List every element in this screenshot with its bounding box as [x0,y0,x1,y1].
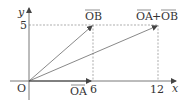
y-axis-label: y [17,6,25,19]
vector-ob [29,26,92,81]
svg-text:OB: OB [161,10,178,23]
label-oa: OA [70,85,88,98]
label-oa-plus-ob: OA + OB [136,10,178,23]
x-tick-12: 12 [150,83,164,96]
vector-oa-plus-ob [29,26,157,81]
origin-label: O [17,82,26,95]
y-tick-5: 5 [20,19,27,32]
x-axis-label: x [172,82,179,95]
svg-text:OA: OA [70,85,88,98]
x-tick-6: 6 [90,83,97,96]
label-ob: OB [85,10,102,23]
vector-diagram: y x O 5 6 12 OA OB OA + OB [0,0,188,106]
svg-text:OB: OB [85,10,102,23]
svg-text:+: + [152,10,161,23]
